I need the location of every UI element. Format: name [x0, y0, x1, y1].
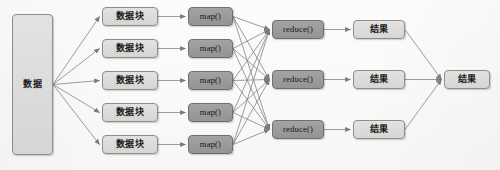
- node-partial-result-1[interactable]: 结果: [353, 20, 405, 39]
- node-map-4-label: map(): [200, 108, 221, 117]
- node-map-2[interactable]: map(): [188, 39, 233, 58]
- node-map-3-label: map(): [200, 76, 221, 85]
- node-map-5-label: map(): [200, 140, 221, 149]
- node-reduce-2[interactable]: reduce(): [272, 70, 324, 89]
- node-map-1[interactable]: map(): [188, 7, 233, 26]
- node-chunk-2-label: 数据块: [116, 44, 145, 53]
- node-final-result-label: 结果: [458, 75, 477, 84]
- node-chunk-1[interactable]: 数据块: [102, 7, 158, 26]
- node-chunk-3[interactable]: 数据块: [102, 71, 158, 90]
- node-chunk-5[interactable]: 数据块: [102, 135, 158, 154]
- node-chunk-4[interactable]: 数据块: [102, 103, 158, 122]
- node-source-data[interactable]: 数据: [12, 14, 53, 155]
- node-chunk-2[interactable]: 数据块: [102, 39, 158, 58]
- node-reduce-3-label: reduce(): [283, 125, 313, 134]
- node-reduce-3[interactable]: reduce(): [272, 120, 324, 139]
- node-map-3[interactable]: map(): [188, 71, 233, 90]
- node-map-1-label: map(): [200, 12, 221, 21]
- node-source-data-label: 数据: [23, 80, 42, 89]
- node-partial-result-3-label: 结果: [370, 125, 389, 134]
- node-reduce-2-label: reduce(): [283, 75, 313, 84]
- node-partial-result-3[interactable]: 结果: [353, 120, 405, 139]
- node-partial-result-1-label: 结果: [370, 25, 389, 34]
- mapreduce-flow-diagram: 数据 数据块 数据块 数据块 数据块 数据块 map() map() map()…: [0, 0, 500, 170]
- node-final-result[interactable]: 结果: [444, 70, 490, 89]
- node-map-4[interactable]: map(): [188, 103, 233, 122]
- node-chunk-5-label: 数据块: [116, 140, 145, 149]
- node-chunk-4-label: 数据块: [116, 108, 145, 117]
- node-partial-result-2[interactable]: 结果: [353, 70, 405, 89]
- node-chunk-3-label: 数据块: [116, 76, 145, 85]
- node-map-5[interactable]: map(): [188, 135, 233, 154]
- node-reduce-1-label: reduce(): [283, 25, 313, 34]
- node-map-2-label: map(): [200, 44, 221, 53]
- node-chunk-1-label: 数据块: [116, 12, 145, 21]
- node-reduce-1[interactable]: reduce(): [272, 20, 324, 39]
- node-partial-result-2-label: 结果: [370, 75, 389, 84]
- edges-layer: [0, 0, 500, 170]
